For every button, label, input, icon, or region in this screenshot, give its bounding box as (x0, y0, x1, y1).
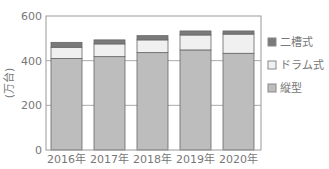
bar-segment (51, 47, 82, 58)
bar-segment (180, 31, 211, 35)
legend-label: ドラム式 (280, 59, 324, 72)
bar-segment (51, 58, 82, 150)
stacked-bar-chart: 0200400600 2016年2017年2018年2019年2020年 (万台… (0, 0, 329, 169)
legend-label: 縦型 (280, 81, 302, 95)
bar-2020年 (223, 31, 254, 150)
bar-segment (51, 42, 82, 47)
y-tick-label: 0 (35, 144, 42, 157)
bar-2018年 (137, 36, 168, 150)
bar-segment (94, 57, 125, 150)
x-tick-label: 2020年 (219, 152, 258, 166)
bar-segment (223, 53, 254, 150)
bar-2016年 (51, 42, 82, 150)
x-tick-label: 2019年 (176, 152, 215, 166)
x-tick-label: 2016年 (47, 152, 86, 166)
y-axis-label: (万台) (2, 68, 16, 99)
bar-segment (94, 40, 125, 44)
y-axis-ticks: 0200400600 (21, 10, 42, 157)
bar-segment (137, 53, 168, 150)
legend: 二槽式ドラム式縦型 (268, 36, 324, 95)
legend-swatch (268, 84, 276, 92)
y-tick-label: 600 (21, 10, 42, 23)
bar-segment (223, 34, 254, 53)
legend-swatch (268, 38, 276, 46)
legend-swatch (268, 61, 276, 69)
x-axis-ticks: 2016年2017年2018年2019年2020年 (47, 152, 258, 166)
bar-segment (94, 44, 125, 57)
bar-2017年 (94, 40, 125, 150)
bar-segment (180, 35, 211, 50)
bar-segment (180, 50, 211, 150)
bars (51, 31, 254, 150)
y-tick-label: 400 (21, 55, 42, 68)
bar-segment (223, 31, 254, 34)
y-tick-label: 200 (21, 99, 42, 112)
bar-2019年 (180, 31, 211, 150)
x-tick-label: 2018年 (133, 152, 172, 166)
bar-segment (137, 40, 168, 53)
x-tick-label: 2017年 (90, 152, 129, 166)
legend-label: 二槽式 (280, 36, 313, 49)
bar-segment (137, 36, 168, 40)
